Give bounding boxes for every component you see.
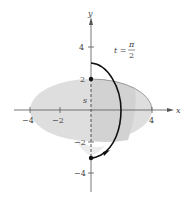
- y-tick-label-2: 2: [80, 75, 85, 84]
- y-tick-label-neg2: −2: [74, 138, 86, 147]
- x-axis-label: x: [176, 106, 181, 115]
- x-tick-label-4: 4: [149, 116, 154, 125]
- s-label: s: [83, 96, 87, 105]
- y-axis-arrow-icon: [89, 17, 93, 25]
- shaded-inner-region: [91, 79, 136, 142]
- x-axis-arrow-icon: [167, 108, 174, 112]
- x-tick-label-neg2: −2: [52, 116, 64, 125]
- t-label: t =: [114, 46, 126, 55]
- t-numerator: π: [128, 40, 135, 49]
- y-tick-label-4: 4: [79, 43, 84, 52]
- point-0-neg3: [89, 156, 93, 160]
- x-tick-label-neg4: −4: [22, 116, 34, 125]
- t-denominator: 2: [129, 51, 134, 60]
- diagram-canvas: −4 −2 4 4 2 −2 −4 x y s t = π 2: [0, 0, 188, 200]
- point-0-2: [89, 77, 93, 81]
- y-tick-label-neg4: −4: [74, 169, 86, 178]
- y-axis-label: y: [87, 9, 93, 18]
